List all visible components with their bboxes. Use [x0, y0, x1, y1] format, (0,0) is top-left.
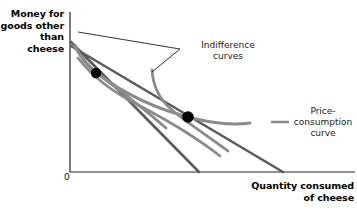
price-consumption-curve-annotation: Price- consumption curve [292, 106, 354, 139]
y-axis-label: Money for goods other than cheese [0, 8, 64, 54]
indifference-leader-lower [152, 49, 180, 72]
budget-line-flat [71, 46, 283, 172]
equilibrium-point-1 [91, 68, 101, 78]
axes-group [70, 12, 355, 172]
origin-label: 0 [64, 172, 70, 182]
indifference-curves-annotation: Indifference curves [182, 40, 274, 62]
budget-line-steep [71, 42, 199, 172]
equilibrium-point-2 [182, 111, 194, 123]
indifference-curve-figure: Money for goods other than cheese Quanti… [0, 0, 357, 211]
indifference-leader-upper [78, 32, 180, 49]
x-axis-label: Quantity consumed of cheese [223, 180, 354, 203]
